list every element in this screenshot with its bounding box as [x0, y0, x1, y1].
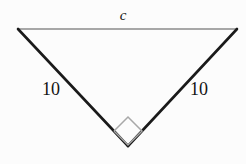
right-angle-marker-icon — [114, 117, 142, 145]
leg-right-line — [128, 29, 237, 146]
leg-right-label: 10 — [190, 80, 208, 98]
hypotenuse-label: c — [0, 8, 246, 23]
right-triangle-figure: c 10 10 — [0, 0, 246, 164]
triangle-svg — [0, 0, 246, 164]
leg-left-label: 10 — [42, 80, 60, 98]
leg-left-line — [18, 29, 128, 146]
